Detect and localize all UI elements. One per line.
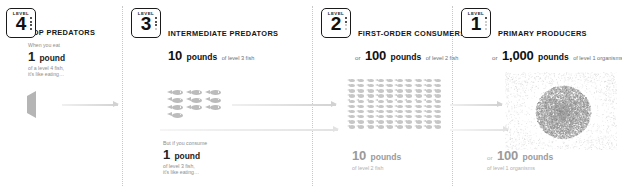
fish-icon <box>414 89 422 93</box>
amount-level1-top: or 1,000 pounds of level 1 organisms <box>492 46 622 64</box>
fish-icon <box>433 84 441 88</box>
narrative-level3-quantity: 1 pound <box>163 147 207 163</box>
infographic-canvas: LEVEL 4 TOP PREDATORS When you eat 1 pou… <box>0 0 622 192</box>
fish-icon <box>347 104 355 108</box>
fish-icon <box>404 84 412 88</box>
fish-icon <box>375 99 383 103</box>
flow-arrow-level3-to-level2 <box>232 104 336 106</box>
fish-icon <box>433 99 441 103</box>
fish-cell <box>404 125 414 130</box>
fish-icon <box>404 94 412 98</box>
fish-icon <box>414 94 422 98</box>
fish-icon <box>414 104 422 108</box>
fish-icon <box>404 104 412 108</box>
fish-icon <box>186 105 202 111</box>
fish-cell <box>413 125 423 130</box>
fish-icon <box>385 125 393 129</box>
fish-icon <box>404 115 412 119</box>
fish-icon <box>347 115 355 119</box>
fish-icon <box>375 120 383 124</box>
level-badge-2-dots <box>345 17 347 30</box>
fish-icon <box>423 115 431 119</box>
narrative-level4-qty-number: 1 <box>28 49 35 64</box>
fish-icon <box>385 78 393 82</box>
fish-icon <box>385 104 393 108</box>
fish-icon <box>404 120 412 124</box>
fish-icon <box>423 104 431 108</box>
fish-icon <box>356 125 364 129</box>
fish-icon <box>205 105 221 111</box>
fish-icon <box>356 104 364 108</box>
fish-icon <box>414 110 422 114</box>
fish-icon <box>394 84 402 88</box>
fish-icon <box>375 110 383 114</box>
level-badge-3-number: 3 <box>141 15 152 33</box>
fish-icon <box>423 125 431 129</box>
fish-icon <box>356 89 364 93</box>
narrative-level4-line1: When you eat <box>28 42 65 49</box>
fish-icon <box>404 125 412 129</box>
level-badge-3-dots <box>155 17 157 30</box>
fish-icon <box>356 78 364 82</box>
level-badge-1-dots <box>485 17 487 30</box>
fish-icon <box>366 89 374 93</box>
fish-icon <box>366 110 374 114</box>
fish-icon <box>423 99 431 103</box>
fish-icon <box>394 110 402 114</box>
fish-icon <box>423 94 431 98</box>
fish-icon <box>423 110 431 114</box>
fish-icon <box>394 120 402 124</box>
fish-cell <box>423 125 433 130</box>
fish-icon <box>167 112 183 118</box>
amount-level3-top-number: 10 <box>168 48 182 63</box>
fish-icon <box>375 89 383 93</box>
amount-level2-top-prefix: or <box>355 54 361 61</box>
amount-level2-bottom-unit: pounds <box>371 152 402 162</box>
fish-icon <box>347 99 355 103</box>
fish-icon <box>385 99 393 103</box>
fish-icon <box>414 78 422 82</box>
fish-cell <box>204 97 223 105</box>
fish-cell <box>204 89 223 97</box>
fish-icon <box>205 90 221 96</box>
fish-icon <box>366 78 374 82</box>
fish-cell <box>166 97 185 105</box>
fish-icon <box>394 78 402 82</box>
amount-level1-bottom-suffix: of level 1 organisms <box>487 165 553 171</box>
level-badge-2: LEVEL 2 <box>321 8 351 38</box>
fish-icon <box>423 78 431 82</box>
fish-icon <box>423 89 431 93</box>
fish-cell <box>432 125 442 130</box>
amount-level1-bottom-unit: pounds <box>523 152 554 162</box>
fish-icon <box>356 120 364 124</box>
amount-level1-top-prefix: or <box>492 54 498 61</box>
fish-icon <box>205 97 221 103</box>
amount-level3-top: 10 pounds of level 3 fish <box>168 46 254 64</box>
fish-icon <box>423 84 431 88</box>
fish-cell <box>356 125 366 130</box>
narrative-level4-quantity: 1 pound <box>28 49 65 65</box>
level-badge-1: LEVEL 1 <box>461 8 491 38</box>
fish-cell <box>166 112 185 120</box>
flow-arrow-level2-to-level1 <box>450 104 502 106</box>
fish-icon <box>385 89 393 93</box>
narrative-level4: When you eat 1 pound of a level 4 fish, … <box>28 42 65 78</box>
narrative-level3-qty-number: 1 <box>163 147 170 162</box>
fish-icon <box>347 125 355 129</box>
fish-icon <box>404 99 412 103</box>
amount-level3-top-unit: pounds <box>187 52 218 62</box>
fish-icon <box>433 120 441 124</box>
fish-icon <box>347 89 355 93</box>
plankton-dots <box>505 72 617 150</box>
level-badge-4-number: 4 <box>16 15 27 33</box>
narrative-level3: But if you consume 1 pound of level 3 fi… <box>163 140 207 176</box>
fish-icon <box>414 84 422 88</box>
divider-level3-level2 <box>312 6 313 186</box>
fish-cell <box>204 104 223 112</box>
fish-cell <box>185 89 204 97</box>
fish-icon <box>433 89 441 93</box>
fish-icon <box>423 120 431 124</box>
fish-icon <box>394 99 402 103</box>
fish-icon <box>385 110 393 114</box>
fish-icon <box>167 90 183 96</box>
